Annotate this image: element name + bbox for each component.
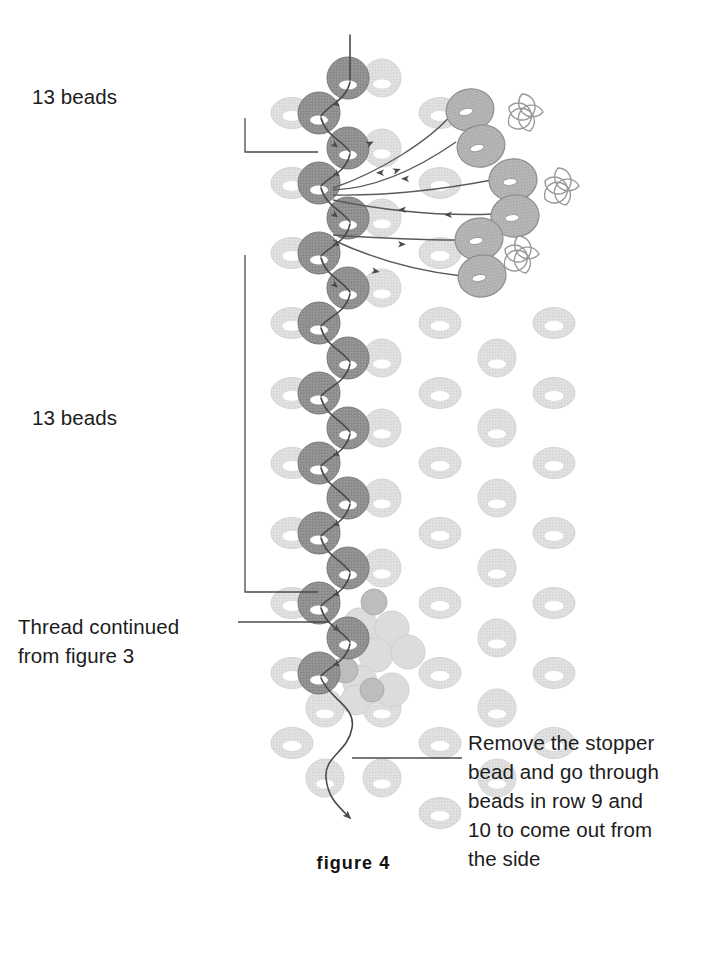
picot-flower [544,168,579,205]
dark-bead [298,582,340,624]
dark-bead [298,442,340,484]
label-remove-stopper: Remove the stopper bead and go through b… [468,728,696,873]
dark-bead [327,337,369,379]
light-bead-column-4 [419,98,461,829]
dark-bead [298,92,340,134]
label-thread-continued: Thread continued from figure 3 [18,612,179,670]
fringe-bead [455,251,510,301]
dark-bead [298,372,340,414]
dark-bead [298,652,340,694]
figure-caption: figure 4 [0,853,707,874]
dark-bead [298,232,340,274]
dark-bead [327,127,369,169]
dark-bead [298,162,340,204]
dark-bead [327,617,369,659]
dark-bead [327,407,369,449]
label-13-beads-top: 13 beads [32,82,117,111]
figure-canvas: 13 beads 13 beads Thread continued from … [0,0,707,968]
dark-bead [327,477,369,519]
dark-bead [327,57,369,99]
picot-flower [504,236,539,273]
dark-bead [298,302,340,344]
dark-bead [298,512,340,554]
label-13-beads-middle: 13 beads [32,403,117,432]
dark-bead [327,267,369,309]
light-bead-column-6 [533,308,575,759]
picot-flower [508,94,543,131]
dark-bead [327,547,369,589]
